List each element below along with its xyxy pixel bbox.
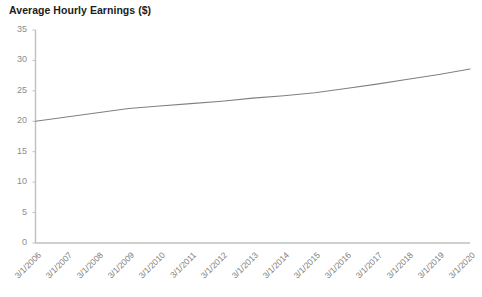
y-axis-tick-label: 15 xyxy=(5,146,27,156)
y-axis-tick-label: 25 xyxy=(5,85,27,95)
y-axis-tick-label: 20 xyxy=(5,115,27,125)
chart-container: Average Hourly Earnings ($) 051015202530… xyxy=(0,0,482,297)
y-axis-tick-label: 30 xyxy=(5,54,27,64)
y-axis-tick-label: 0 xyxy=(5,237,27,247)
y-axis-tick-label: 5 xyxy=(5,207,27,217)
y-axis-tick-label: 10 xyxy=(5,176,27,186)
y-axis-tick-label: 35 xyxy=(5,24,27,34)
earnings-data-line xyxy=(36,69,471,121)
chart-axes xyxy=(36,30,471,243)
